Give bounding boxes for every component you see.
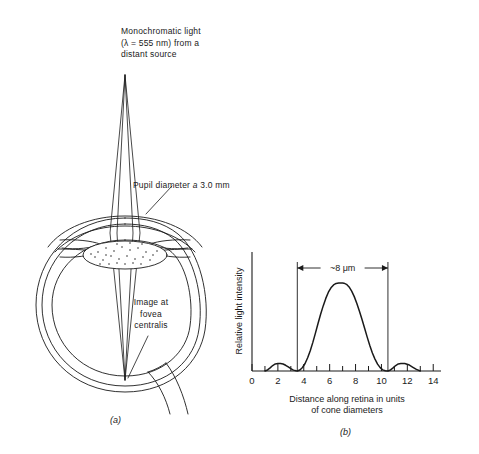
width-annotation-guides: [297, 262, 388, 371]
x-axis-ticks: [252, 364, 433, 371]
x-tick-label: 6: [327, 375, 332, 386]
airy-intensity-curve: [265, 283, 420, 371]
x-tick-label: 12: [402, 375, 413, 386]
x-tick-label: 2: [275, 375, 280, 386]
x-tick-label: 0: [249, 375, 254, 386]
panel-b-label: (b): [340, 427, 351, 437]
x-tick-label: 8: [353, 375, 358, 386]
x-axis-label-line2: of cone diameters: [311, 405, 383, 415]
arrowhead-left: [297, 265, 303, 271]
x-tick-label: 10: [376, 375, 387, 386]
figure-eye-diffraction: Monochromatic light (λ = 555 nm) from a …: [0, 0, 479, 454]
x-axis-tick-labels: 02468101214: [249, 375, 438, 386]
x-axis-label-line1: Distance along retina in units: [289, 394, 405, 404]
x-tick-label: 14: [428, 375, 439, 386]
width-annotation-text: ~8 μm: [330, 263, 355, 273]
panel-b-chart: 02468101214 ~8 μm Relative light intensi…: [0, 0, 479, 454]
arrowhead-right: [382, 265, 388, 271]
y-axis-label: Relative light intensity: [234, 267, 244, 355]
x-tick-label: 4: [301, 375, 306, 386]
